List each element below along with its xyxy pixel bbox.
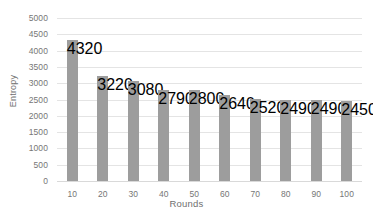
y-tick-label: 1000	[29, 143, 48, 153]
bar[interactable]: 2790	[158, 90, 169, 181]
y-tick-label: 2500	[29, 95, 48, 105]
bar-series: 4320322030802790280026402520249024902450	[57, 18, 362, 181]
bar[interactable]: 3220	[97, 76, 108, 181]
y-tick-label: 4500	[29, 29, 48, 39]
x-axis-title: Rounds	[0, 198, 373, 209]
bar[interactable]: 2640	[219, 95, 230, 181]
x-tick-slot: 70	[240, 183, 271, 197]
x-tick-slot: 80	[271, 183, 302, 197]
x-tick-slot: 10	[57, 183, 88, 197]
x-tick-slot: 50	[179, 183, 210, 197]
y-tick-label: 1500	[29, 127, 48, 137]
bar[interactable]: 2450	[341, 101, 352, 181]
gridline	[57, 181, 362, 182]
x-axis-tick-labels: 102030405060708090100	[57, 183, 362, 197]
bar-slot: 3080	[118, 18, 149, 181]
plot-area: 4320322030802790280026402520249024902450	[57, 18, 362, 181]
bar[interactable]: 2800	[189, 90, 200, 181]
bar[interactable]: 4320	[67, 40, 78, 181]
x-tick-slot: 20	[88, 183, 119, 197]
y-tick-label: 2000	[29, 111, 48, 121]
bar-slot: 2450	[332, 18, 363, 181]
y-tick-label: 0	[43, 176, 48, 186]
y-tick-label: 500	[34, 160, 48, 170]
bar-slot: 2490	[301, 18, 332, 181]
x-tick-slot: 30	[118, 183, 149, 197]
y-tick-label: 4000	[29, 46, 48, 56]
bar-slot: 3220	[88, 18, 119, 181]
bar[interactable]: 2520	[250, 99, 261, 181]
y-tick-label: 3000	[29, 78, 48, 88]
x-tick-slot: 100	[332, 183, 363, 197]
y-axis-tick-labels: 5000450040003500300025002000150010005000	[0, 18, 52, 181]
bar-chart: Entropy 50004500400035003000250020001500…	[0, 0, 373, 219]
bar-slot: 2490	[271, 18, 302, 181]
x-tick-slot: 40	[149, 183, 180, 197]
bar-slot: 2790	[149, 18, 180, 181]
bar[interactable]: 2490	[311, 100, 322, 181]
bar-slot: 4320	[57, 18, 88, 181]
y-tick-label: 5000	[29, 13, 48, 23]
bar-slot: 2520	[240, 18, 271, 181]
bar-slot: 2640	[210, 18, 241, 181]
bar-slot: 2800	[179, 18, 210, 181]
y-tick-label: 3500	[29, 62, 48, 72]
x-tick-slot: 90	[301, 183, 332, 197]
bar[interactable]: 3080	[128, 81, 139, 181]
x-tick-slot: 60	[210, 183, 241, 197]
bar[interactable]: 2490	[280, 100, 291, 181]
